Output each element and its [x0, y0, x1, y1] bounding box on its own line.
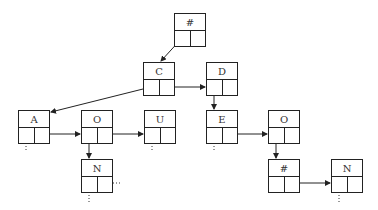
node-C: C	[143, 62, 175, 96]
trie-diagram: # C D A O U E O N	[0, 0, 378, 210]
node-N-2: N	[331, 159, 363, 193]
child-pointer-cell	[145, 128, 161, 143]
sibling-pointer-cell	[223, 128, 238, 143]
sibling-pointer-cell	[161, 128, 176, 143]
child-pointer-cell	[269, 128, 285, 143]
node-label: D	[207, 63, 237, 80]
node-label: C	[144, 63, 174, 80]
child-pointer-cell	[207, 80, 223, 95]
node-N-1: N	[81, 159, 113, 193]
sibling-pointer-cell	[223, 80, 238, 95]
child-pointer-cell	[82, 128, 98, 143]
node-label: E	[207, 111, 237, 128]
sibling-pointer-cell	[285, 177, 300, 192]
child-pointer-cell	[207, 128, 223, 143]
node-label: U	[145, 111, 175, 128]
node-O-2: O	[268, 110, 300, 144]
sibling-pointer-cell	[98, 128, 113, 143]
sibling-pointer-cell	[98, 177, 113, 192]
child-pointer-cell	[19, 128, 35, 143]
node-O-1: O	[81, 110, 113, 144]
node-label: O	[82, 111, 112, 128]
node-root-hash: #	[174, 13, 206, 47]
child-pointer-cell	[269, 177, 285, 192]
node-label: O	[269, 111, 299, 128]
edge-C-A	[51, 87, 151, 112]
node-E: E	[206, 110, 238, 144]
node-D: D	[206, 62, 238, 96]
node-label: #	[175, 14, 205, 31]
node-U: U	[144, 110, 176, 144]
node-label: #	[269, 160, 299, 177]
node-label: N	[82, 160, 112, 177]
node-label: N	[332, 160, 362, 177]
child-pointer-cell	[175, 31, 191, 46]
child-pointer-cell	[332, 177, 348, 192]
sibling-pointer-cell	[348, 177, 363, 192]
child-pointer-cell	[82, 177, 98, 192]
sibling-pointer-cell	[160, 80, 175, 95]
sibling-pointer-cell	[285, 128, 300, 143]
sibling-pointer-cell	[35, 128, 50, 143]
node-label: A	[19, 111, 49, 128]
child-pointer-cell	[144, 80, 160, 95]
sibling-pointer-cell	[191, 31, 206, 46]
node-hash-2: #	[268, 159, 300, 193]
node-A: A	[18, 110, 50, 144]
